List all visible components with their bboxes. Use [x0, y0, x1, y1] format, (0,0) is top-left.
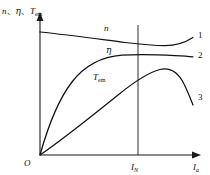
- curve-label-speed: n: [104, 23, 109, 33]
- x-tick-label-rated: IN: [130, 162, 139, 173]
- y-label-sep-2: 、: [21, 6, 30, 16]
- x-axis-label: Ia: [192, 162, 199, 173]
- svg-text:Ia: Ia: [192, 162, 199, 173]
- curve-speed-n: [40, 32, 193, 46]
- y-axis: [37, 12, 44, 155]
- x-label-I-subscript: a: [196, 167, 199, 173]
- x-axis: [40, 152, 201, 159]
- origin-label: O: [24, 158, 31, 168]
- curve-torque-tem: [40, 69, 193, 155]
- curve-label-torque-subscript: em: [98, 77, 106, 83]
- y-axis-label: n、η、Tem: [2, 6, 43, 17]
- characteristic-curves-chart: O n、η、Tem Ia IN n η Tem: [0, 0, 210, 175]
- curve-number-1: 1: [198, 30, 203, 40]
- svg-text:n、η、Tem: n、η、Tem: [2, 6, 43, 17]
- x-axis-arrow: [192, 152, 201, 159]
- y-label-T-subscript: em: [35, 11, 43, 17]
- figure-container: O n、η、Tem Ia IN n η Tem: [0, 0, 210, 175]
- svg-text:IN: IN: [130, 162, 139, 173]
- x-tick-I-subscript: N: [133, 167, 139, 173]
- curve-number-2: 2: [198, 50, 203, 60]
- curve-number-3: 3: [198, 92, 203, 102]
- curve-label-torque: Tem: [93, 72, 106, 83]
- svg-text:Tem: Tem: [93, 72, 106, 83]
- curve-label-efficiency: η: [106, 45, 112, 55]
- y-label-sep-1: 、: [7, 6, 16, 16]
